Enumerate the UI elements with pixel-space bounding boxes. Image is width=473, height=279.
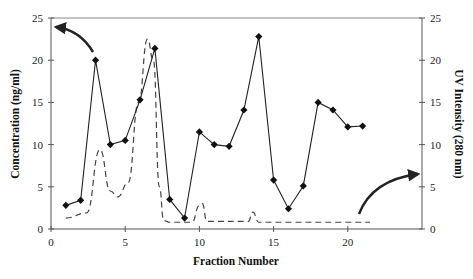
- diamond-marker: [122, 137, 129, 144]
- diamond-marker: [77, 197, 84, 204]
- diamond-marker: [92, 57, 99, 64]
- left-axis-arrow-icon: [56, 27, 93, 52]
- x-axis-title: Fraction Number: [193, 255, 279, 267]
- y-tick-label: 5: [38, 181, 44, 193]
- y2-tick-label: 25: [430, 12, 442, 24]
- diamond-marker: [315, 99, 322, 106]
- y2-tick-label: 15: [430, 96, 442, 108]
- right-axis-arrow-icon: [359, 174, 418, 214]
- y2-tick-label: 5: [430, 181, 436, 193]
- x-tick-label: 5: [122, 236, 128, 248]
- y-tick-label: 15: [32, 96, 44, 108]
- y-tick-label: 20: [32, 54, 44, 66]
- y2-tick-label: 0: [430, 223, 436, 235]
- diamond-marker: [285, 205, 292, 212]
- diamond-marker: [255, 33, 262, 40]
- uv-intensity-line: [66, 39, 370, 222]
- diamond-marker: [107, 141, 114, 148]
- diamond-marker: [240, 106, 247, 113]
- uv-intensity-series: [66, 39, 370, 222]
- x-tick-label: 15: [268, 236, 280, 248]
- y2-axis-title: UV Intensity (280 nm): [452, 69, 465, 179]
- chart: 0510152005101520250510152025 Fraction Nu…: [0, 0, 473, 279]
- plot-frame: 0510152005101520250510152025: [32, 12, 442, 248]
- y-tick-label: 25: [32, 12, 44, 24]
- diamond-marker: [359, 122, 366, 129]
- y2-tick-label: 10: [430, 139, 442, 151]
- y-axis-title: Concentration (ng/ml): [9, 69, 22, 179]
- x-tick-label: 20: [342, 236, 354, 248]
- annotation-arrows: [56, 27, 418, 214]
- diamond-marker: [151, 45, 158, 52]
- x-tick-label: 10: [194, 236, 206, 248]
- y2-tick-label: 20: [430, 54, 442, 66]
- y-tick-label: 0: [38, 223, 44, 235]
- diamond-marker: [62, 202, 69, 209]
- x-tick-label: 0: [48, 236, 54, 248]
- diamond-marker: [270, 176, 277, 183]
- diamond-marker: [225, 143, 232, 150]
- y-tick-label: 10: [32, 139, 44, 151]
- diamond-marker: [300, 182, 307, 189]
- concentration-series: [62, 33, 366, 222]
